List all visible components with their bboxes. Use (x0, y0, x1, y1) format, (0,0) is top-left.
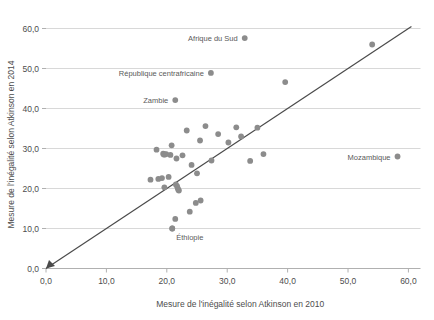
data-point (215, 131, 221, 137)
reference-line-45deg (46, 27, 411, 269)
data-point-labeled (169, 226, 175, 232)
data-point-annotation: République centrafricaine (119, 69, 204, 78)
data-point-annotation: Éthiopie (176, 233, 203, 242)
data-point-labeled (395, 154, 401, 160)
data-point-labeled (242, 35, 248, 41)
scatter-plot-figure: 0,010,020,030,040,050,060,00,010,020,030… (0, 0, 434, 320)
data-point (180, 152, 186, 158)
y-tick-label: 0,0 (27, 264, 39, 274)
data-point (247, 158, 253, 164)
data-point (148, 177, 154, 183)
x-axis-title: Mesure de l'inégalité selon Atkinson en … (156, 299, 324, 309)
data-point (209, 158, 215, 164)
x-tick-label: 30,0 (219, 276, 236, 286)
data-point (261, 151, 267, 157)
y-tick-label: 50,0 (22, 64, 39, 74)
data-point (189, 162, 195, 168)
x-tick-label: 0,0 (40, 276, 52, 286)
data-point-labeled (208, 70, 214, 76)
data-point-annotation: Zambie (143, 96, 168, 105)
y-tick-label: 20,0 (22, 184, 39, 194)
data-point (198, 198, 204, 204)
data-point-annotation: Afrique du Sud (188, 34, 238, 43)
reference-line-arrowhead (46, 260, 55, 269)
data-point (174, 156, 180, 162)
data-point (226, 140, 232, 146)
data-point (176, 188, 182, 194)
y-tick-label: 10,0 (22, 224, 39, 234)
data-point-annotation: Mozambique (348, 153, 391, 162)
data-point (184, 128, 190, 134)
data-point (197, 138, 203, 144)
data-point-labeled (172, 97, 178, 103)
data-point (168, 152, 174, 158)
data-point (238, 134, 244, 140)
y-tick-label: 40,0 (22, 104, 39, 114)
data-point (369, 42, 375, 48)
data-point (187, 209, 193, 215)
data-point (194, 170, 200, 176)
data-point (166, 174, 172, 180)
x-tick-label: 20,0 (159, 276, 176, 286)
data-point (154, 147, 160, 153)
data-point (172, 216, 178, 222)
x-tick-label: 50,0 (340, 276, 357, 286)
data-point (255, 125, 261, 131)
x-tick-label: 40,0 (279, 276, 296, 286)
y-axis-title: Mesure de l'inégalité selon Atkinson en … (6, 60, 16, 228)
x-tick-label: 10,0 (98, 276, 115, 286)
data-point (203, 123, 209, 129)
data-point (159, 175, 165, 181)
x-tick-label: 60,0 (400, 276, 417, 286)
y-tick-label: 60,0 (22, 24, 39, 34)
y-tick-label: 30,0 (22, 144, 39, 154)
plot-canvas: 0,010,020,030,040,050,060,00,010,020,030… (0, 0, 434, 320)
data-point (282, 79, 288, 85)
data-point (169, 142, 175, 148)
data-point (161, 184, 167, 190)
data-point (233, 124, 239, 130)
